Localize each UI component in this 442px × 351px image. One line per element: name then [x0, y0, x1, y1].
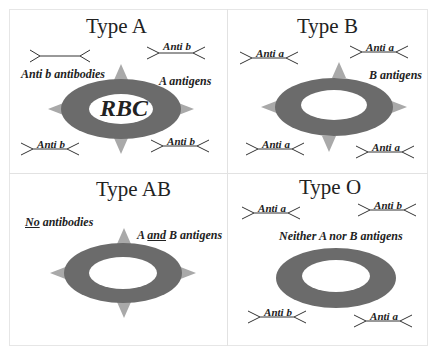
antigen-top: [114, 64, 128, 80]
antibody-anti-b: Anti b: [147, 43, 207, 59]
antigen-bottom: [322, 136, 336, 152]
antibody-icon: [30, 49, 92, 63]
antibody-anti-b: Anti b: [248, 309, 308, 325]
antigen-note: Neither A nor B antigens: [279, 229, 403, 244]
panel-title: Type A: [86, 14, 147, 39]
panel-title: Type B: [297, 14, 358, 39]
antibody-anti-a: Anti a: [242, 205, 302, 221]
panel-title: Type AB: [96, 177, 171, 202]
antigen-top: [332, 62, 346, 78]
antibody-anti-a: Anti a: [350, 44, 410, 60]
antibody-anti-b: Anti b: [21, 141, 81, 157]
antigen-top: [117, 228, 131, 244]
antibody-anti-b: Anti b: [358, 202, 418, 218]
panel-type-a: Type A Anti b antibodies Anti b A antige…: [0, 0, 227, 173]
red-blood-cell: [50, 228, 196, 318]
panel-type-o: Type O Anti a Anti b Neither A nor B ant…: [221, 173, 442, 351]
red-blood-cell: [275, 247, 397, 309]
rbc-label: RBC: [100, 95, 148, 122]
antigen-bottom: [117, 302, 131, 318]
antibody-anti-a: Anti a: [354, 313, 414, 329]
antibody-anti-b: Anti b: [151, 138, 211, 154]
antibody-anti-a: Anti a: [356, 144, 416, 160]
antigen-bottom: [114, 138, 128, 154]
antibody-anti-a: Anti a: [246, 141, 306, 157]
panel-title: Type O: [299, 175, 361, 200]
panel-type-b: Type B Anti a Anti a B antigens Anti a A…: [221, 0, 442, 173]
panel-type-ab: Type AB No antibodies A and B antigens: [0, 173, 227, 351]
